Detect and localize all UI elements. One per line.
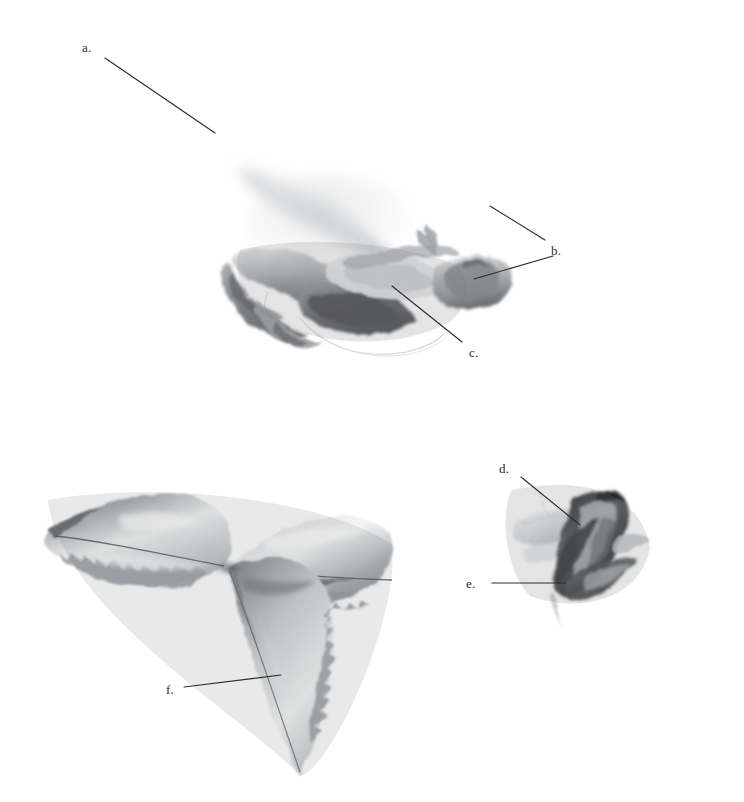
label-d: d. [499, 461, 509, 477]
plate-artwork [0, 0, 744, 802]
label-f: f. [166, 682, 174, 698]
leaf-grain [48, 492, 393, 776]
botanical-plate: a. b. c. d. e. f. [0, 0, 744, 802]
label-e: e. [466, 576, 475, 592]
label-c: c. [469, 345, 478, 361]
label-b: b. [551, 243, 561, 259]
specimen-rose-bud [506, 485, 650, 626]
bud-grain [506, 485, 650, 603]
specimen-flower-profile [219, 142, 512, 356]
specimen-trifoliate-leaf [45, 492, 393, 776]
leader-line-b-upper [490, 206, 545, 240]
leader-line-a [105, 58, 215, 133]
label-a: a. [82, 40, 91, 56]
